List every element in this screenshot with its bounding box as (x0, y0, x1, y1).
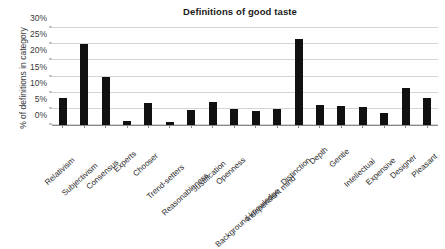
bar-slot (181, 28, 202, 125)
y-tick-label: 5% (7, 94, 47, 104)
x-tick-mark (148, 125, 149, 128)
bar-slot (395, 28, 416, 125)
x-tick-mark (405, 125, 406, 128)
x-label-slot: Depth (309, 129, 330, 224)
x-tick-mark (84, 125, 85, 128)
bar (230, 109, 238, 125)
bar (252, 111, 260, 125)
bar (316, 105, 324, 125)
y-tick-label: 25% (7, 29, 47, 39)
bar-slot (416, 28, 437, 125)
bar-slot (245, 28, 266, 125)
x-label-slot: Experts (116, 129, 137, 224)
bar-slot (224, 28, 245, 125)
bar-slot (73, 28, 94, 125)
bar-slot (138, 28, 159, 125)
bar-slot (266, 28, 287, 125)
x-label-slot: Pleasant (416, 129, 437, 224)
y-tick-label: 0% (7, 110, 47, 120)
bar (359, 107, 367, 125)
x-tick-mark (341, 125, 342, 128)
x-tick-mark (362, 125, 363, 128)
bar (273, 109, 281, 125)
x-label-slot: Consensus (95, 129, 116, 224)
x-tick-mark (169, 125, 170, 128)
bar (423, 98, 431, 125)
x-tick-mark (234, 125, 235, 128)
bar-slot (52, 28, 73, 125)
bar (295, 39, 303, 125)
bar-slot (288, 28, 309, 125)
plot-area: 0%5%10%15%20%25%30% (52, 28, 438, 125)
bar-slot (352, 28, 373, 125)
x-tick-mark (191, 125, 192, 128)
y-tick-label: 10% (7, 78, 47, 88)
x-label-slot: Chooser (138, 129, 159, 224)
bar (209, 102, 217, 125)
bar (102, 77, 110, 125)
bar (380, 113, 388, 125)
bar-slot (309, 28, 330, 125)
y-tick-label: 30% (7, 13, 47, 23)
bar-slot (95, 28, 116, 125)
x-tick-mark (127, 125, 128, 128)
x-label-slot: Relativism (52, 129, 73, 224)
bar (80, 44, 88, 125)
x-label-slot: Distinction (288, 129, 309, 224)
bar-slot (116, 28, 137, 125)
x-axis-labels: RelativismSubjectivismConsensusExpertsCh… (52, 129, 438, 224)
bar-slot (202, 28, 223, 125)
bar (144, 103, 152, 125)
chart-title: Definitions of good taste (60, 6, 420, 17)
bar-slot (374, 28, 395, 125)
y-tick-label: 20% (7, 45, 47, 55)
x-tick-mark (277, 125, 278, 128)
bar (402, 88, 410, 125)
bar-slot (159, 28, 180, 125)
y-tick-label: 15% (7, 62, 47, 72)
x-tick-mark (62, 125, 63, 128)
x-tick-mark (319, 125, 320, 128)
x-tick-mark (427, 125, 428, 128)
bar (187, 110, 195, 125)
x-tick-mark (212, 125, 213, 128)
x-label-slot: Openness (224, 129, 245, 224)
x-label-slot: Reasonableness (181, 129, 202, 224)
x-tick-mark (298, 125, 299, 128)
x-tick-mark (255, 125, 256, 128)
x-tick-mark (384, 125, 385, 128)
bar-series (52, 28, 438, 125)
x-tick-mark (105, 125, 106, 128)
bar-slot (331, 28, 352, 125)
bar (337, 106, 345, 125)
bar (59, 98, 67, 125)
